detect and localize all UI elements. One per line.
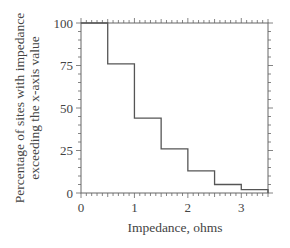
step-chart: 0123 0255075100 Impedance, ohms Percenta… xyxy=(0,0,290,248)
y-tick-label: 50 xyxy=(60,101,73,116)
y-axis-label: Percentage of sites with impedance excee… xyxy=(12,13,42,203)
y-tick-label: 75 xyxy=(60,58,73,73)
axis-ticks xyxy=(76,18,273,198)
x-tick-label: 0 xyxy=(78,200,85,215)
x-tick-labels: 0123 xyxy=(78,200,245,215)
x-axis-label: Impedance, ohms xyxy=(127,220,222,235)
y-tick-label: 100 xyxy=(54,16,74,31)
y-tick-label: 25 xyxy=(60,143,73,158)
y-tick-labels: 0255075100 xyxy=(54,16,74,201)
x-tick-label: 3 xyxy=(238,200,245,215)
x-tick-label: 2 xyxy=(185,200,192,215)
y-axis-label-line-1: Percentage of sites with impedance xyxy=(12,13,27,203)
step-line-series xyxy=(81,23,268,193)
x-tick-label: 1 xyxy=(131,200,138,215)
plot-frame xyxy=(81,23,268,193)
y-axis-label-line-2: exceeding the x-axis value xyxy=(27,36,42,180)
y-tick-label: 0 xyxy=(67,186,74,201)
